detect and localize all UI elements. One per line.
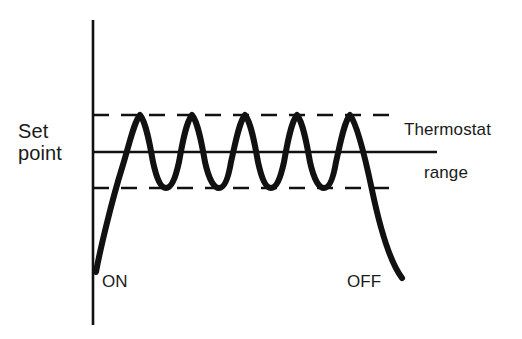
off-label: OFF <box>347 272 381 291</box>
thermostat-label: Thermostat <box>404 120 491 139</box>
thermostat-range-figure: Set point Thermostat range ON OFF <box>0 0 522 339</box>
temperature-curve <box>96 115 402 278</box>
set-point-label: Set point <box>18 120 62 165</box>
range-label: range <box>424 163 468 182</box>
on-label: ON <box>102 272 128 291</box>
